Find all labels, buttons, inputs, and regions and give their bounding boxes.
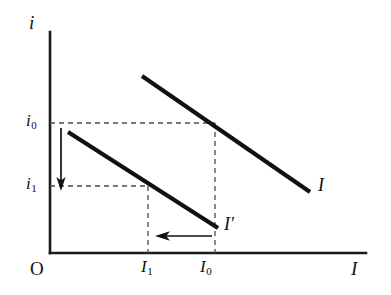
x-tick-label-I0: I0 [200, 258, 211, 275]
y-axis-label: i [29, 13, 34, 32]
curve-label-original: I [318, 176, 324, 194]
x-tick-I0-subscript: 0 [206, 265, 212, 277]
curve-investment-demand-original [142, 76, 310, 192]
investment-demand-figure: i I O i0 i1 I1 I0 I I′ [0, 0, 391, 295]
curve-label-shifted: I′ [224, 215, 234, 233]
y-tick-label-i1: i1 [26, 175, 36, 192]
x-tick-label-I1: I1 [141, 258, 152, 275]
x-axis-label: I [351, 259, 357, 278]
y-tick-label-i0: i0 [26, 112, 36, 129]
curve-investment-demand-shifted [68, 132, 218, 228]
origin-label: O [30, 259, 44, 278]
y-tick-i0-subscript: 0 [31, 119, 37, 131]
figure-canvas [0, 0, 391, 295]
x-tick-I1-base: I [141, 257, 147, 276]
x-tick-I1-subscript: 1 [147, 265, 153, 277]
x-tick-I0-base: I [200, 257, 206, 276]
y-tick-i1-subscript: 1 [31, 182, 37, 194]
